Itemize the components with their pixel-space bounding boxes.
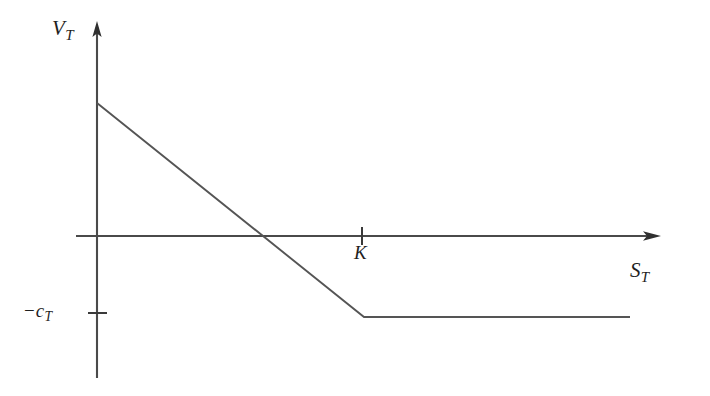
y-axis-label: VT <box>52 18 74 43</box>
strike-tick-label: K <box>354 243 367 262</box>
premium-tick-label-base: c <box>36 300 44 321</box>
premium-tick-label-subscript: T <box>44 309 52 324</box>
figure-background <box>0 0 710 396</box>
y-axis-label-subscript: T <box>65 27 73 43</box>
x-axis-label-subscript: T <box>641 269 649 285</box>
y-axis-label-base: V <box>52 16 65 40</box>
premium-tick-label: −cT <box>24 301 52 324</box>
x-axis-label: ST <box>630 260 649 285</box>
x-axis-label-base: S <box>630 258 641 282</box>
minus-sign: − <box>24 300 35 321</box>
payoff-diagram-canvas <box>0 0 710 396</box>
payoff-diagram-figure: VT ST K −cT <box>0 0 710 396</box>
